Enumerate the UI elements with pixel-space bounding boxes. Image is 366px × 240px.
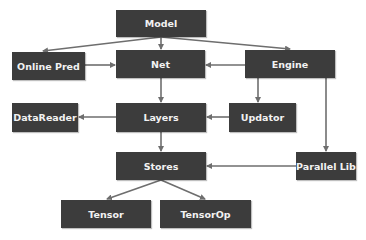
node-updator: Updator: [229, 103, 296, 132]
node-model: Model: [116, 10, 206, 37]
edge-model-engine: [161, 37, 290, 49]
node-engine: Engine: [245, 50, 335, 78]
node-online-pred: Online Pred: [12, 52, 85, 80]
node-layers: Layers: [116, 103, 206, 132]
architecture-diagram: Model Online Pred Net Engine DataReader …: [0, 0, 366, 240]
node-tensorop: TensorOp: [160, 200, 251, 228]
node-datareader: DataReader: [12, 103, 78, 132]
edge-model-online-pred: [43, 37, 161, 51]
edge-stores-tensor: [107, 180, 161, 199]
node-net: Net: [116, 50, 205, 78]
node-parallel-lib: Parallel Lib: [296, 152, 356, 180]
edge-stores-tensorop: [161, 180, 205, 199]
node-tensor: Tensor: [61, 200, 151, 228]
node-stores: Stores: [116, 152, 206, 180]
